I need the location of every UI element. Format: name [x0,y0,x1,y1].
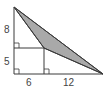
hypotenuse [14,7,103,74]
geometry-diagram: 8 5 6 12 [0,0,112,91]
right-angle-marker-bottom-left [14,69,19,74]
right-angle-marker-upper [14,43,19,48]
right-angle-marker-bottom-middle [44,69,49,74]
label-left-lower: 5 [4,56,10,67]
label-bottom-right: 12 [63,77,75,88]
label-bottom-left: 6 [26,77,32,88]
label-left-upper: 8 [4,24,10,35]
